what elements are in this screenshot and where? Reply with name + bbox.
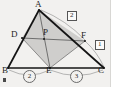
vertex-dot-p	[43, 38, 45, 40]
corner-artifact-mark	[3, 78, 6, 82]
point-label-e: E	[46, 66, 52, 75]
circled-label-segment-ec: 3	[70, 70, 83, 83]
boxed-label-ratio-af-fc: 2	[67, 11, 77, 21]
page-gutter	[110, 0, 115, 87]
point-label-a: A	[35, 0, 42, 9]
point-label-b: B	[2, 66, 8, 75]
point-label-f: F	[81, 31, 86, 40]
circled-label-segment-be: 2	[23, 70, 36, 83]
boxed-label-ratio-fc: 1	[95, 40, 105, 50]
vertex-dot-d	[21, 37, 23, 39]
point-label-c: C	[98, 66, 104, 75]
point-label-p: P	[43, 28, 48, 37]
geometry-figure: A B C D E F P 2 1 2 3	[0, 0, 115, 87]
vertex-dot-a	[38, 9, 40, 11]
point-label-d: D	[11, 30, 18, 39]
vertex-dot-f	[84, 40, 86, 42]
